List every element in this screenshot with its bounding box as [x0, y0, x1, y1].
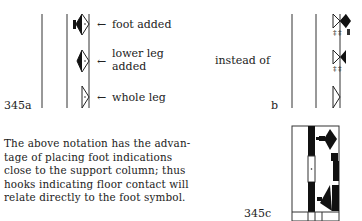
- right-column-block-3: [332, 185, 339, 211]
- annotation-whole-leg: whole leg: [112, 92, 166, 104]
- svg-text:‡: ‡: [338, 65, 342, 73]
- foot-added-alt-symbol: ‡ ‡: [333, 14, 351, 37]
- svg-text:‡: ‡: [338, 29, 342, 37]
- hook-symbol-bottom: [317, 197, 322, 201]
- foot-added-symbol: [73, 14, 89, 35]
- svg-text:‡: ‡: [333, 29, 337, 37]
- support-column-upper: [308, 126, 315, 156]
- annotation-arrow-whole-leg: ←: [97, 92, 106, 104]
- paragraph-line: close to the support column; thus: [4, 164, 204, 178]
- right-column-block-1: [331, 153, 338, 161]
- paragraph-line: The above notation has the advan-: [4, 137, 204, 151]
- body-paragraph: The above notation has the advan- tage o…: [4, 137, 204, 205]
- paragraph-line: hooks indicating floor contact will: [4, 178, 204, 192]
- annotation-foot-added: foot added: [112, 19, 171, 31]
- annotation-lower-leg-line1: lower leg: [112, 48, 164, 60]
- paragraph-line: tage of placing foot indications: [4, 151, 204, 165]
- paragraph-line: relate directly to the foot symbol.: [4, 191, 204, 205]
- lower-leg-added-symbol: [77, 50, 89, 72]
- right-column-block-2: [333, 161, 339, 181]
- figure-label-345c: 345c: [244, 207, 271, 220]
- svg-text:‡: ‡: [333, 65, 337, 73]
- annotation-arrow-foot: ←: [97, 19, 106, 31]
- figure-345c-staff: [290, 125, 350, 221]
- figure-label-345a: 345a: [4, 99, 32, 112]
- annotation-lower-leg-line2: added: [112, 61, 146, 73]
- figure-b-staff: ‡ ‡ ‡ ‡: [280, 0, 362, 110]
- figure-label-b: b: [271, 99, 278, 112]
- whole-leg-symbol: [82, 86, 89, 108]
- whole-leg-alt-symbol: [333, 86, 340, 108]
- support-column-lower: [308, 182, 315, 212]
- instead-of-text: instead of: [215, 55, 270, 67]
- annotation-arrow-lower-leg: ←: [97, 56, 106, 68]
